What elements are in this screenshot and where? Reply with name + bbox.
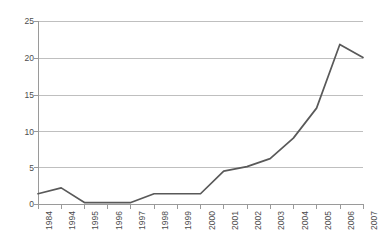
y-axis-labels: 25 20 15 10 5 0 bbox=[0, 0, 34, 242]
x-tick-label-2007: 2007 bbox=[370, 211, 379, 230]
y-tick-mark-5 bbox=[34, 167, 38, 168]
x-tick-mark-2 bbox=[84, 205, 85, 209]
x-tick-mark-7 bbox=[200, 205, 201, 209]
x-tick-mark-1 bbox=[61, 205, 62, 209]
x-tick-mark-0 bbox=[38, 205, 39, 209]
x-tick-label-1994: 1994 bbox=[68, 211, 77, 230]
x-tick-mark-10 bbox=[270, 205, 271, 209]
x-tick-label-2002: 2002 bbox=[254, 211, 263, 230]
x-tick-mark-13 bbox=[340, 205, 341, 209]
x-tick-mark-8 bbox=[223, 205, 224, 209]
y-tick-mark-25 bbox=[34, 21, 38, 22]
y-tick-mark-20 bbox=[34, 58, 38, 59]
x-tick-label-2003: 2003 bbox=[277, 211, 286, 230]
x-tick-mark-14 bbox=[363, 205, 364, 209]
y-tick-mark-10 bbox=[34, 131, 38, 132]
x-tick-label-1997: 1997 bbox=[138, 211, 147, 230]
x-tick-mark-12 bbox=[316, 205, 317, 209]
x-tick-label-1998: 1998 bbox=[161, 211, 170, 230]
x-tick-label-2000: 2000 bbox=[208, 211, 217, 230]
gridline-25 bbox=[38, 21, 363, 22]
gridline-10 bbox=[38, 131, 363, 132]
x-tick-label-1995: 1995 bbox=[91, 211, 100, 230]
line-chart: 25 20 15 10 5 0 1984 1994 1995 1996 1997… bbox=[0, 0, 381, 242]
gridline-20 bbox=[38, 58, 363, 59]
x-tick-label-2001: 2001 bbox=[231, 211, 240, 230]
x-tick-label-2005: 2005 bbox=[324, 211, 333, 230]
gridline-15 bbox=[38, 95, 363, 96]
y-tick-label-0: 0 bbox=[4, 200, 34, 209]
x-tick-mark-3 bbox=[107, 205, 108, 209]
x-tick-label-2004: 2004 bbox=[301, 211, 310, 230]
y-tick-label-15: 15 bbox=[4, 91, 34, 100]
x-tick-mark-11 bbox=[293, 205, 294, 209]
x-tick-mark-9 bbox=[247, 205, 248, 209]
x-tick-label-2006: 2006 bbox=[347, 211, 356, 230]
y-tick-mark-15 bbox=[34, 95, 38, 96]
y-tick-label-5: 5 bbox=[4, 164, 34, 173]
y-tick-label-20: 20 bbox=[4, 54, 34, 63]
y-tick-label-10: 10 bbox=[4, 128, 34, 137]
x-tick-label-1984: 1984 bbox=[45, 211, 54, 230]
gridline-5 bbox=[38, 167, 363, 168]
plot-area bbox=[38, 21, 363, 204]
y-tick-label-25: 25 bbox=[4, 17, 34, 26]
x-tick-label-1996: 1996 bbox=[115, 211, 124, 230]
x-tick-mark-4 bbox=[130, 205, 131, 209]
x-tick-mark-6 bbox=[177, 205, 178, 209]
x-tick-mark-5 bbox=[154, 205, 155, 209]
y-axis-line bbox=[38, 21, 39, 205]
x-tick-label-1999: 1999 bbox=[184, 211, 193, 230]
